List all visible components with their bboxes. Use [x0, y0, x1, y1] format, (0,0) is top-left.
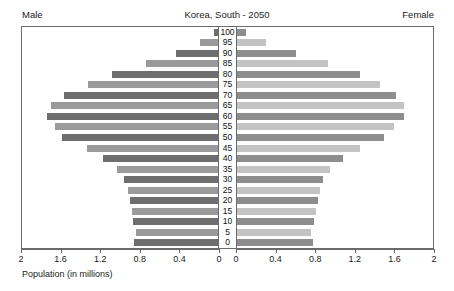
age-group-label: 85 — [219, 59, 236, 68]
female-bar — [237, 113, 404, 120]
age-group-label: 20 — [219, 196, 236, 205]
axis-tick-label: 0 — [233, 254, 238, 265]
male-bars-pane — [22, 27, 218, 248]
male-bar — [146, 60, 218, 67]
age-label-column: 1009590858075706560555045403530252015105… — [218, 27, 237, 248]
male-bar — [200, 39, 218, 46]
female-bar — [237, 218, 314, 225]
female-x-axis: 00.40.81.21.62 — [236, 249, 434, 267]
axis-tick-label: 0.4 — [173, 254, 186, 265]
axis-tick — [21, 249, 22, 253]
age-group-label: 80 — [219, 70, 236, 79]
axis-tick-label: 2 — [18, 254, 23, 265]
male-bar — [112, 71, 218, 78]
male-bar — [176, 50, 218, 57]
female-bar — [237, 229, 311, 236]
male-bar — [124, 176, 218, 183]
axis-tick-label: 1.2 — [349, 254, 362, 265]
age-group-label: 50 — [219, 133, 236, 142]
male-bar — [87, 145, 218, 152]
axis-tick — [434, 249, 435, 253]
male-bar — [55, 123, 218, 130]
axis-tick — [61, 249, 62, 253]
age-group-label: 90 — [219, 49, 236, 58]
age-group-label: 55 — [219, 122, 236, 131]
chart-header: Male Korea, South - 2050 Female — [0, 8, 454, 22]
axis-tick — [219, 249, 220, 253]
male-bar — [136, 229, 218, 236]
axis-tick-label: 1.6 — [54, 254, 67, 265]
age-group-label: 65 — [219, 101, 236, 110]
age-group-label: 95 — [219, 38, 236, 47]
female-bar — [237, 92, 396, 99]
axis-tick — [394, 249, 395, 253]
male-bar — [62, 134, 218, 141]
axis-tick-label: 0.4 — [269, 254, 282, 265]
age-group-label: 0 — [219, 238, 236, 247]
chart-title: Korea, South - 2050 — [0, 8, 454, 22]
female-bar — [237, 102, 404, 109]
age-group-label: 10 — [219, 217, 236, 226]
female-bar — [237, 176, 323, 183]
female-bars-pane — [237, 27, 433, 248]
female-side-label: Female — [402, 8, 434, 22]
age-group-label: 70 — [219, 91, 236, 100]
female-bar — [237, 50, 296, 57]
male-bar — [47, 113, 218, 120]
male-bar — [134, 239, 218, 246]
age-group-label: 5 — [219, 228, 236, 237]
age-group-label: 25 — [219, 186, 236, 195]
axis-line — [21, 249, 219, 250]
female-bar — [237, 239, 313, 246]
axis-tick — [355, 249, 356, 253]
axis-tick-label: 2 — [431, 254, 436, 265]
female-bar — [237, 166, 330, 173]
male-bar — [133, 218, 218, 225]
male-bar — [103, 155, 218, 162]
male-x-axis: 21.61.20.80.40 — [21, 249, 219, 267]
axis-tick-label: 0.8 — [309, 254, 322, 265]
age-group-label: 35 — [219, 165, 236, 174]
age-group-label: 75 — [219, 80, 236, 89]
age-group-label: 60 — [219, 112, 236, 121]
population-pyramid-chart: Male Korea, South - 2050 Female 10095908… — [0, 0, 454, 291]
male-bar — [117, 166, 218, 173]
female-bar — [237, 39, 266, 46]
female-bar — [237, 155, 343, 162]
axis-tick-label: 1.2 — [94, 254, 107, 265]
axis-tick — [140, 249, 141, 253]
axis-tick-label: 0 — [216, 254, 221, 265]
female-bar — [237, 29, 246, 36]
female-bar — [237, 145, 360, 152]
axis-tick — [236, 249, 237, 253]
female-bar — [237, 71, 360, 78]
female-bar — [237, 60, 328, 67]
female-bar — [237, 197, 318, 204]
axis-tick — [276, 249, 277, 253]
age-group-label: 45 — [219, 144, 236, 153]
female-bar — [237, 123, 394, 130]
male-bar — [130, 197, 218, 204]
axis-tick-label: 0.8 — [134, 254, 147, 265]
female-bar — [237, 81, 380, 88]
plot-area: 1009590858075706560555045403530252015105… — [22, 27, 433, 248]
age-group-label: 15 — [219, 207, 236, 216]
axis-tick — [100, 249, 101, 253]
age-group-label: 100 — [219, 28, 236, 37]
age-group-label: 30 — [219, 175, 236, 184]
male-bar — [128, 187, 218, 194]
male-bar — [88, 81, 218, 88]
age-group-label: 40 — [219, 154, 236, 163]
axis-tick — [179, 249, 180, 253]
female-bar — [237, 134, 384, 141]
axis-tick — [315, 249, 316, 253]
female-bar — [237, 187, 320, 194]
female-bar — [237, 208, 316, 215]
axis-line — [236, 249, 434, 250]
male-bar — [132, 208, 218, 215]
x-axis-title: Population (in millions) — [22, 268, 113, 280]
male-bar — [64, 92, 218, 99]
axis-tick-label: 1.6 — [388, 254, 401, 265]
male-bar — [51, 102, 218, 109]
